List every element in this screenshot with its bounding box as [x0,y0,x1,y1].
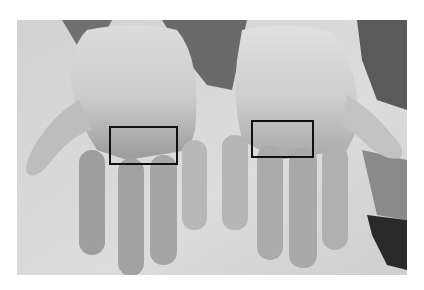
left-pinky [79,150,105,255]
hands-photo [17,20,407,275]
right-index-finger [222,135,248,230]
right-ring-finger [289,148,317,268]
hands-illustration [17,20,407,275]
left-ring-finger [118,158,144,275]
right-middle-finger [257,145,283,260]
roi-box-left-hand [109,126,178,165]
left-middle-finger [150,155,177,265]
left-index-finger [182,140,207,230]
roi-box-right-hand [251,120,314,158]
right-pinky [322,145,348,250]
